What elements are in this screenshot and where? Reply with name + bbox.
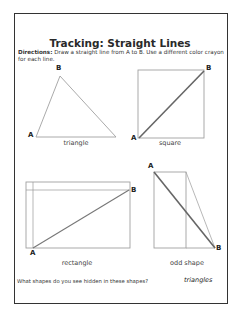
- triangle-point-b: B: [56, 64, 61, 72]
- triangle-point-a: A: [28, 131, 33, 139]
- square-shape: [138, 70, 204, 138]
- rectangle-label: rectangle: [52, 259, 102, 267]
- triangle-shape: [36, 76, 116, 137]
- square-point-a: A: [131, 134, 136, 142]
- square-drawn-line: [139, 71, 204, 138]
- odd-shape-label: odd shape: [162, 259, 212, 267]
- question-text: What shapes do you see hidden in these s…: [17, 278, 148, 284]
- rectangle-point-a: A: [30, 249, 35, 257]
- square-point-b: B: [206, 64, 211, 72]
- odd-shape-point-b: B: [216, 244, 221, 252]
- triangle-label: triangle: [56, 139, 96, 147]
- rectangle-point-b: B: [131, 186, 136, 194]
- odd-shape: [154, 172, 215, 248]
- rectangle-drawn-line: [33, 190, 129, 248]
- odd-shape-drawn-line: [154, 172, 215, 248]
- answer-text[interactable]: triangles: [184, 276, 212, 284]
- square-label: square: [150, 139, 190, 147]
- rectangle-shape: [26, 182, 130, 248]
- odd-shape-point-a: A: [148, 162, 153, 170]
